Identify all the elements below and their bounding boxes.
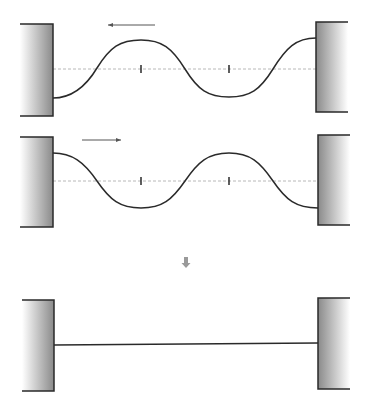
right-arrow-icon-head — [116, 138, 121, 142]
left-arrow-icon-head — [108, 23, 113, 27]
flat-string — [54, 343, 318, 345]
diagram-canvas — [0, 0, 372, 412]
right-wall — [316, 22, 348, 112]
left-wall-fill — [20, 24, 53, 116]
left-wall — [20, 137, 53, 227]
down-arrow-shaft — [184, 257, 188, 263]
left-wall-fill — [22, 300, 54, 391]
left-arrow-icon — [108, 23, 155, 27]
panel-wave-rightward — [20, 135, 350, 227]
right-arrow-icon — [82, 138, 121, 142]
left-wall — [20, 24, 53, 116]
wave-curve — [53, 38, 316, 98]
down-arrow-icon — [182, 257, 191, 268]
left-wall — [22, 300, 54, 391]
panel-wave-leftward — [20, 22, 348, 116]
right-wall — [318, 298, 350, 389]
panel-superposition-flat — [22, 298, 350, 391]
right-wall-fill — [316, 22, 348, 112]
right-wall-fill — [318, 298, 350, 389]
right-wall-fill — [318, 135, 350, 225]
right-wall — [318, 135, 350, 225]
left-wall-fill — [20, 137, 53, 227]
down-arrow-head — [182, 263, 191, 268]
